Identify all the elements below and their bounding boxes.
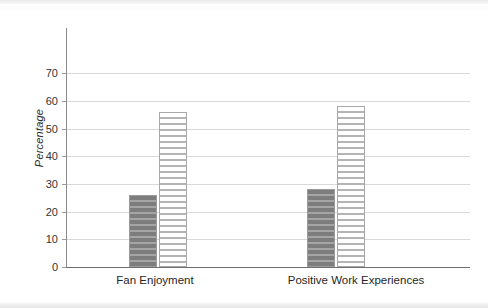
y-tick-label-10: 10 xyxy=(32,234,58,245)
y-tick-mark-40 xyxy=(62,156,66,157)
y-tick-mark-0 xyxy=(62,267,66,268)
y-axis-title: Percentage xyxy=(33,93,45,183)
y-tick-label-70: 70 xyxy=(32,68,58,79)
gridline-10 xyxy=(66,239,470,240)
y-tick-mark-30 xyxy=(62,184,66,185)
gridline-20 xyxy=(66,212,470,213)
gridline-40 xyxy=(66,156,470,157)
gridline-50 xyxy=(66,129,470,130)
y-tick-mark-10 xyxy=(62,239,66,240)
x-axis-line xyxy=(66,267,470,268)
page-bottom-band xyxy=(0,302,488,308)
y-tick-mark-20 xyxy=(62,212,66,213)
y-tick-mark-70 xyxy=(62,73,66,74)
bar-fan-enjoyment-series2 xyxy=(159,112,187,267)
bar-positive-work-series2 xyxy=(337,106,365,267)
bar-positive-work-series1 xyxy=(307,189,335,267)
bar-chart-figure: 70 60 50 40 30 20 10 0 Percentage Fan En… xyxy=(0,0,488,308)
y-tick-mark-60 xyxy=(62,101,66,102)
gridline-60 xyxy=(66,101,470,102)
plot-area xyxy=(66,28,470,267)
gridline-30 xyxy=(66,184,470,185)
y-axis-line xyxy=(66,28,67,268)
bar-fan-enjoyment-series1 xyxy=(129,195,157,267)
x-category-label-fan-enjoyment: Fan Enjoyment xyxy=(90,274,220,286)
y-tick-mark-50 xyxy=(62,129,66,130)
gridline-70 xyxy=(66,73,470,74)
y-tick-label-0: 0 xyxy=(32,262,58,273)
y-tick-label-20: 20 xyxy=(32,207,58,218)
x-category-label-positive-work: Positive Work Experiences xyxy=(268,274,444,286)
